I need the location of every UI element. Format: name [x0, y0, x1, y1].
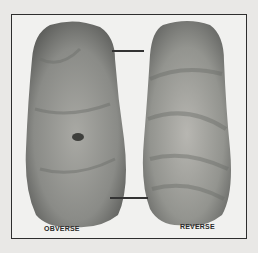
- obverse-label: OBVERSE: [44, 225, 80, 232]
- scale-bar-bottom: [110, 197, 148, 199]
- figure-frame: OBVERSE REVERSE: [11, 14, 247, 239]
- reverse-label: REVERSE: [180, 223, 215, 230]
- reverse-artifact-image: [138, 19, 238, 231]
- scale-bar-top: [112, 50, 144, 52]
